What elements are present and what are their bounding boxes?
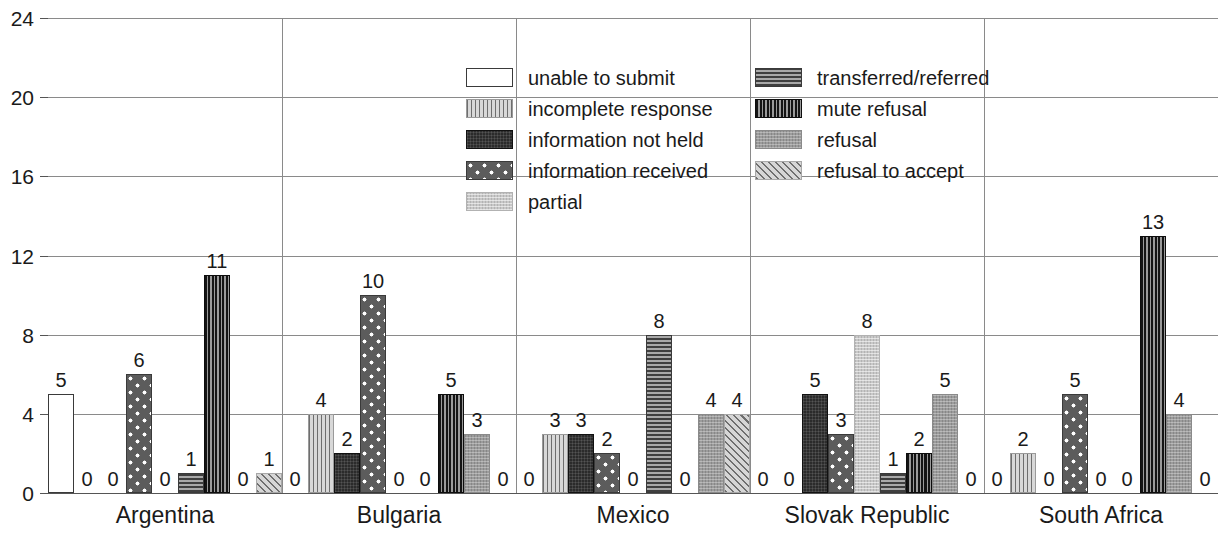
bar-slot-argentina-unable-to-submit: 5 [48, 18, 74, 493]
legend-column-left: unable to submitincomplete responseinfor… [466, 62, 713, 217]
bar-value-label-south-africa-information-not-held: 0 [1043, 469, 1054, 489]
bar-value-label-south-africa-mute-refusal: 13 [1142, 212, 1164, 232]
bar-value-label-south-africa-incomplete-response: 2 [1017, 429, 1028, 449]
bar-argentina-information-received[interactable] [126, 374, 152, 493]
bar-south-africa-mute-refusal[interactable] [1140, 236, 1166, 493]
bar-bulgaria-information-not-held[interactable] [334, 453, 360, 493]
y-tick-label-20: 20 [11, 87, 34, 108]
bar-value-label-mexico-transferred-referred: 8 [653, 311, 664, 331]
bar-value-label-bulgaria-information-not-held: 2 [341, 429, 352, 449]
bar-bulgaria-incomplete-response[interactable] [308, 414, 334, 493]
bar-slot-argentina-information-received: 6 [126, 18, 152, 493]
bar-value-label-mexico-unable-to-submit: 0 [523, 469, 534, 489]
legend: unable to submitincomplete responseinfor… [466, 62, 1026, 222]
legend-label-refusal: refusal [817, 130, 877, 150]
bar-mexico-transferred-referred[interactable] [646, 335, 672, 493]
legend-item-information-received[interactable]: information received [466, 155, 713, 186]
gridline-0 [48, 493, 1218, 494]
bar-mexico-refusal-to-accept[interactable] [724, 414, 750, 493]
legend-item-partial[interactable]: partial [466, 186, 713, 217]
legend-item-information-not-held[interactable]: information not held [466, 124, 713, 155]
legend-column-right: transferred/referredmute refusalrefusalr… [755, 62, 989, 186]
x-axis-category-labels: ArgentinaBulgariaMexicoSlovak RepublicSo… [0, 504, 1223, 533]
bar-slovak-republic-mute-refusal[interactable] [906, 453, 932, 493]
bar-argentina-unable-to-submit[interactable] [48, 394, 74, 493]
bar-value-label-slovak-republic-transferred-referred: 1 [887, 449, 898, 469]
bar-value-label-slovak-republic-mute-refusal: 2 [913, 429, 924, 449]
bar-value-label-bulgaria-partial: 0 [393, 469, 404, 489]
bar-value-label-bulgaria-information-received: 10 [362, 271, 384, 291]
legend-item-transferred-referred[interactable]: transferred/referred [755, 62, 989, 93]
legend-label-refusal-to-accept: refusal to accept [817, 161, 964, 181]
bar-value-label-slovak-republic-information-received: 3 [835, 410, 846, 430]
bar-value-label-mexico-partial: 0 [627, 469, 638, 489]
bar-slot-argentina-transferred-referred: 1 [178, 18, 204, 493]
y-tick-label-4: 4 [22, 403, 34, 424]
bar-slot-argentina-information-not-held: 0 [100, 18, 126, 493]
bar-slot-south-africa-refusal: 4 [1166, 18, 1192, 493]
bar-argentina-refusal-to-accept[interactable] [256, 473, 282, 493]
x-axis-label-south-africa: South Africa [1039, 504, 1163, 527]
bar-mexico-information-not-held[interactable] [568, 434, 594, 493]
bar-bulgaria-mute-refusal[interactable] [438, 394, 464, 493]
y-tick-mark-20 [40, 97, 48, 98]
bar-south-africa-information-received[interactable] [1062, 394, 1088, 493]
bar-value-label-south-africa-partial: 0 [1095, 469, 1106, 489]
bar-slovak-republic-transferred-referred[interactable] [880, 473, 906, 493]
legend-item-refusal-to-accept[interactable]: refusal to accept [755, 155, 989, 186]
bar-slot-south-africa-partial: 0 [1088, 18, 1114, 493]
y-tick-label-8: 8 [22, 324, 34, 345]
bar-south-africa-incomplete-response[interactable] [1010, 453, 1036, 493]
bar-chart: 04812162024 5006011101042100053003320804… [0, 0, 1223, 533]
bar-bulgaria-refusal[interactable] [464, 434, 490, 493]
bar-bulgaria-information-received[interactable] [360, 295, 386, 493]
bar-slot-bulgaria-information-not-held: 2 [334, 18, 360, 493]
bar-value-label-bulgaria-transferred-referred: 0 [419, 469, 430, 489]
bar-value-label-bulgaria-incomplete-response: 4 [315, 390, 326, 410]
bar-mexico-information-received[interactable] [594, 453, 620, 493]
x-axis-label-slovak-republic: Slovak Republic [785, 504, 950, 527]
y-axis: 04812162024 [0, 0, 34, 533]
bar-slovak-republic-information-not-held[interactable] [802, 394, 828, 493]
bar-mexico-refusal[interactable] [698, 414, 724, 493]
bar-south-africa-refusal[interactable] [1166, 414, 1192, 493]
legend-item-incomplete-response[interactable]: incomplete response [466, 93, 713, 124]
bar-value-label-bulgaria-mute-refusal: 5 [445, 370, 456, 390]
legend-swatch-partial [466, 192, 513, 211]
bar-value-label-slovak-republic-unable-to-submit: 0 [757, 469, 768, 489]
y-tick-mark-16 [40, 176, 48, 177]
bar-slot-south-africa-refusal-to-accept: 0 [1192, 18, 1218, 493]
legend-label-mute-refusal: mute refusal [817, 99, 927, 119]
bar-slot-bulgaria-transferred-referred: 0 [412, 18, 438, 493]
bar-slovak-republic-partial[interactable] [854, 335, 880, 493]
bar-value-label-south-africa-information-received: 5 [1069, 370, 1080, 390]
legend-item-refusal[interactable]: refusal [755, 124, 989, 155]
bar-value-label-argentina-information-received: 6 [133, 350, 144, 370]
x-axis-label-bulgaria: Bulgaria [357, 504, 441, 527]
bar-value-label-bulgaria-unable-to-submit: 0 [289, 469, 300, 489]
legend-swatch-refusal-to-accept [755, 161, 802, 180]
bar-argentina-transferred-referred[interactable] [178, 473, 204, 493]
legend-item-unable-to-submit[interactable]: unable to submit [466, 62, 713, 93]
legend-label-incomplete-response: incomplete response [528, 99, 713, 119]
bar-slovak-republic-information-received[interactable] [828, 434, 854, 493]
legend-label-partial: partial [528, 192, 582, 212]
bar-value-label-south-africa-refusal-to-accept: 0 [1199, 469, 1210, 489]
y-tick-label-12: 12 [11, 245, 34, 266]
legend-item-mute-refusal[interactable]: mute refusal [755, 93, 989, 124]
bar-slot-argentina-refusal: 0 [230, 18, 256, 493]
bar-slot-south-africa-information-received: 5 [1062, 18, 1088, 493]
bar-argentina-mute-refusal[interactable] [204, 275, 230, 493]
bar-value-label-mexico-refusal: 4 [705, 390, 716, 410]
legend-swatch-mute-refusal [755, 99, 802, 118]
bar-value-label-argentina-unable-to-submit: 5 [55, 370, 66, 390]
bar-slot-bulgaria-mute-refusal: 5 [438, 18, 464, 493]
bar-mexico-incomplete-response[interactable] [542, 434, 568, 493]
bar-value-label-bulgaria-refusal: 3 [471, 410, 482, 430]
bar-value-label-argentina-partial: 0 [159, 469, 170, 489]
legend-swatch-incomplete-response [466, 99, 513, 118]
bar-slovak-republic-refusal[interactable] [932, 394, 958, 493]
legend-label-transferred-referred: transferred/referred [817, 68, 989, 88]
bar-value-label-argentina-incomplete-response: 0 [81, 469, 92, 489]
bar-slot-bulgaria-partial: 0 [386, 18, 412, 493]
